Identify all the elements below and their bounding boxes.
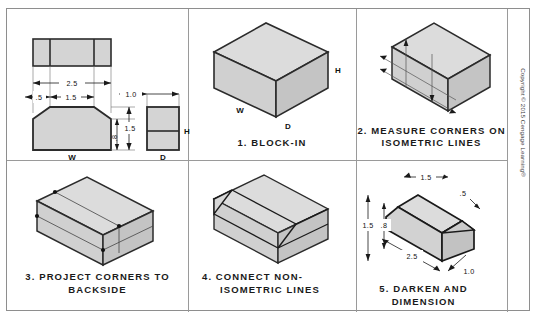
darken-dimension-drawing: 1.5 .5 1.5 .8 xyxy=(356,161,507,279)
corner-point-4 xyxy=(101,248,105,252)
dim-height-upper: 1.5 xyxy=(124,124,135,133)
figure-frame: 2.5 .5 1.5 W 1.0 xyxy=(6,8,530,311)
arrow-overall-right xyxy=(104,80,111,85)
caption-measure-corners-line1: 2. MEASURE CORNERS ON xyxy=(356,125,507,138)
dim-depth: 1.0 xyxy=(125,90,136,99)
caption-project-corners-line1: 3. PROJECT CORNERS TO xyxy=(7,271,188,284)
final-dim-length: 2.5 xyxy=(406,252,417,261)
final-arrow-lower-bottom xyxy=(382,243,386,249)
panel-darken-dimension: 1.5 .5 1.5 .8 xyxy=(356,161,507,312)
figure-root: 2.5 .5 1.5 W 1.0 xyxy=(0,0,546,321)
corner-point-1 xyxy=(53,190,57,194)
divider-copyright-rule xyxy=(507,9,508,312)
arrow-chamfer-left xyxy=(25,94,32,99)
final-arrow-height-bottom xyxy=(366,254,371,261)
caption-measure-corners-line2: ISOMETRIC LINES xyxy=(356,137,507,150)
final-dim-chamfer: .5 xyxy=(460,189,467,198)
panel-block-in: W H D 1. BLOCK-IN xyxy=(188,9,356,160)
dim-flat-top: 1.5 xyxy=(65,93,76,102)
caption-connect-line1: 4. CONNECT NON- xyxy=(188,271,370,284)
block-in-label-d: D xyxy=(285,122,291,131)
panel-orthographic-views: 2.5 .5 1.5 W 1.0 xyxy=(7,9,188,160)
arrow-flat-left xyxy=(50,94,57,99)
final-arrow-lower-top xyxy=(382,203,386,209)
front-view-outline xyxy=(33,107,111,150)
orthographic-drawing: 2.5 .5 1.5 W 1.0 xyxy=(7,9,188,160)
arrow-flat-right xyxy=(87,94,94,99)
arrow-depth-right xyxy=(172,91,179,96)
final-dim-lower: .8 xyxy=(381,221,388,230)
arrow-height-top xyxy=(126,107,131,114)
block-in-label-h: H xyxy=(335,66,341,75)
dim-height-lower: .8 xyxy=(110,135,119,142)
final-arrow-height-top xyxy=(366,195,371,202)
measure-corners-drawing xyxy=(356,9,507,127)
final-dim-height: 1.5 xyxy=(362,221,373,230)
arrow-lower-bottom xyxy=(115,144,119,150)
panel-connect-nonisometric: 4. CONNECT NON- ISOMETRIC LINES xyxy=(188,161,356,312)
panel-measure-corners: 2. MEASURE CORNERS ON ISOMETRIC LINES xyxy=(356,9,507,160)
top-view-outline xyxy=(33,39,111,66)
copyright-notice: Copyright © 2015 Cengage Learning® xyxy=(520,68,527,177)
project-corners-drawing xyxy=(7,161,188,271)
arrow-height-bottom xyxy=(126,143,131,150)
final-arrow-top-left xyxy=(404,173,411,178)
arrow-overall-left xyxy=(33,80,40,85)
final-dim-top-flat: 1.5 xyxy=(420,173,431,182)
caption-project-corners-line2: BACKSIDE xyxy=(7,284,188,297)
arrow-lower-top xyxy=(115,119,119,125)
dim-chamfer-left: .5 xyxy=(36,93,43,102)
final-arrow-length-right xyxy=(433,266,440,271)
panel-project-corners: 3. PROJECT CORNERS TO BACKSIDE xyxy=(7,161,188,312)
side-view-outline xyxy=(147,107,179,150)
connect-nonisometric-drawing xyxy=(188,161,356,271)
dim-overall-width: 2.5 xyxy=(66,79,77,88)
final-dim-depth: 1.0 xyxy=(463,267,474,276)
corner-point-2 xyxy=(35,214,39,218)
block-in-drawing: W H D xyxy=(188,9,356,134)
block-in-label-w: W xyxy=(236,106,244,115)
caption-block-in: 1. BLOCK-IN xyxy=(188,137,356,150)
caption-darken-dimension: 5. DARKEN AND DIMENSION xyxy=(348,283,499,308)
corner-point-3 xyxy=(117,224,121,228)
